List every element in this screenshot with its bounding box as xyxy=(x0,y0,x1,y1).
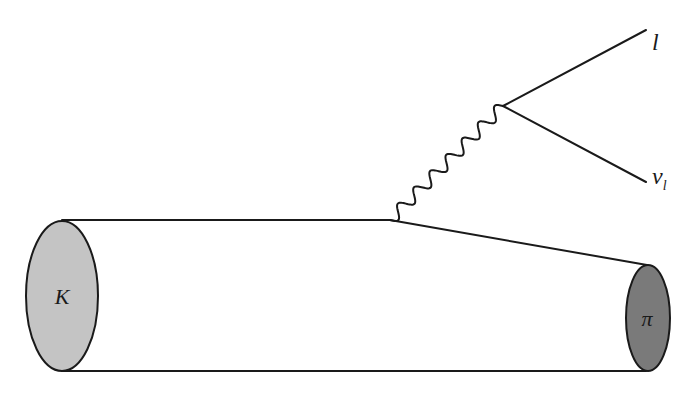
w-boson-wavy-line xyxy=(390,105,503,221)
pion-label: π xyxy=(641,306,653,331)
tube-top-slope xyxy=(390,220,647,265)
lepton-line xyxy=(503,30,646,106)
neutrino-subscript: l xyxy=(663,178,667,193)
feynman-diagram: K π l νl xyxy=(0,0,699,398)
lepton-label: l xyxy=(652,29,659,55)
neutrino-line xyxy=(503,106,646,182)
neutrino-label: νl xyxy=(652,163,667,193)
kaon-label: K xyxy=(54,284,71,309)
neutrino-symbol: ν xyxy=(652,163,663,189)
